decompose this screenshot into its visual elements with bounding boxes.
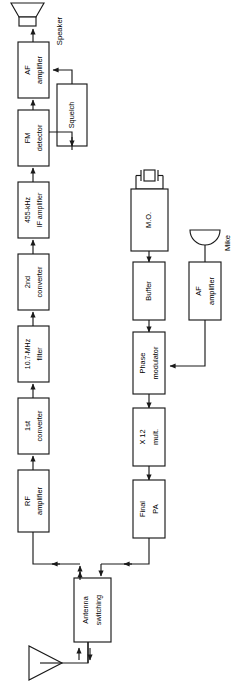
antenna-icon bbox=[29, 642, 88, 680]
block-fm-detector: FM detector bbox=[18, 110, 49, 166]
if-amplifier-line1: 455-kHz bbox=[24, 196, 31, 223]
phase-modulator-line2: modulator bbox=[151, 346, 160, 379]
block-multiplier: X 12 mult. bbox=[133, 408, 165, 466]
af-amplifier-tx-line2: amplifier bbox=[207, 277, 216, 305]
antenna-switching-line2: switching bbox=[94, 595, 103, 625]
af-amplifier-rx-line1: AF bbox=[23, 65, 32, 75]
wire-aftx-to-phasemod bbox=[170, 320, 205, 366]
af-amplifier-tx-line1: AF bbox=[194, 286, 203, 296]
block-af-amplifier-rx: AF amplifier bbox=[18, 42, 49, 98]
af-amplifier-rx-line2: amplifier bbox=[35, 56, 44, 84]
block-master-oscillator: M.O. bbox=[131, 189, 168, 251]
filter-line2: filter bbox=[36, 347, 43, 361]
block-first-converter: 1st converter bbox=[18, 398, 49, 454]
block-filter: 10.7-MHz filter bbox=[18, 326, 49, 382]
squelch-label: Squelch bbox=[67, 102, 76, 129]
speaker-icon bbox=[11, 3, 44, 26]
mike-icon bbox=[190, 230, 220, 262]
first-converter-line1: 1st bbox=[23, 421, 32, 431]
block-phase-modulator: Phase modulator bbox=[133, 332, 165, 394]
mike-label: Mike bbox=[223, 235, 232, 251]
block-af-amplifier-tx: AF amplifier bbox=[189, 262, 221, 320]
filter-line1: 10.7-MHz bbox=[24, 338, 31, 369]
master-oscillator-label: M.O. bbox=[144, 212, 153, 228]
block-if-amplifier: 455-kHz IF amplifier bbox=[18, 182, 49, 238]
wire-finalpa-to-antsw bbox=[101, 538, 149, 564]
final-pa-line2: PA bbox=[151, 504, 160, 513]
phase-modulator-line1: Phase bbox=[138, 353, 147, 374]
crystal-icon bbox=[136, 170, 163, 189]
rf-amplifier-line1: RF bbox=[23, 496, 32, 506]
fm-detector-line1: FM bbox=[23, 133, 32, 144]
transceiver-block-diagram: Speaker AF amplifier Squelch FM detector… bbox=[0, 0, 234, 685]
block-buffer: Buffer bbox=[133, 262, 165, 320]
block-antenna-switching: Antenna switching bbox=[74, 578, 111, 642]
block-final-pa: Final PA bbox=[133, 480, 165, 538]
if-amplifier-line2: IF amplifier bbox=[36, 192, 44, 227]
block-diagram-canvas: Speaker AF amplifier Squelch FM detector… bbox=[0, 0, 234, 685]
speaker-label: Speaker bbox=[55, 16, 64, 45]
second-converter-line1: 2nd bbox=[23, 276, 32, 288]
rf-amplifier-line2: amplifier bbox=[35, 487, 44, 515]
block-second-converter: 2nd converter bbox=[18, 254, 49, 310]
second-converter-line2: converter bbox=[35, 266, 44, 297]
first-converter-line2: converter bbox=[35, 410, 44, 441]
wire-antsw-to-rfamp bbox=[33, 532, 80, 564]
multiplier-line2: mult. bbox=[151, 429, 160, 445]
antenna-switching-line1: Antenna bbox=[81, 595, 90, 623]
block-rf-amplifier: RF amplifier bbox=[18, 470, 49, 532]
wire-squelch-to-afamp bbox=[53, 70, 72, 84]
final-pa-line1: Final bbox=[138, 501, 147, 517]
buffer-label: Buffer bbox=[144, 281, 153, 301]
fm-detector-line2: detector bbox=[35, 124, 44, 151]
multiplier-line1: X 12 bbox=[138, 429, 147, 444]
